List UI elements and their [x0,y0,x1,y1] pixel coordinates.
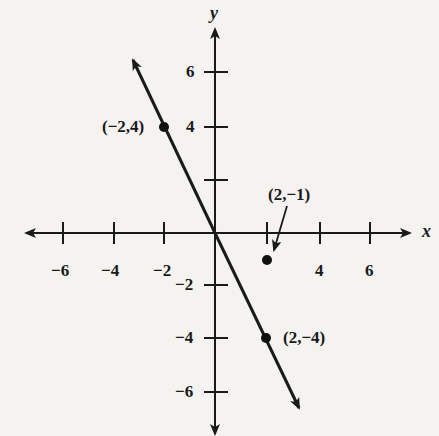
point-neg2-4 [159,122,169,132]
point-2-neg4 [261,333,271,343]
point-label-2-neg1: (2,−1) [268,186,310,203]
point-label-2-neg4: (2,−4) [283,329,325,346]
point-label-neg2-4: (−2,4) [102,118,144,135]
point-2-neg1 [262,255,272,265]
y-tick-label: 6 [186,63,195,80]
y-tick-label: −2 [175,276,193,293]
y-axis-label: y [210,4,218,22]
x-tick-label: 6 [365,262,374,279]
x-tick-label: −4 [101,262,119,279]
x-tick-label: −2 [153,262,171,279]
x-tick-label: 4 [315,262,324,279]
x-axis-label: x [422,222,431,240]
line-y-neg2x [133,60,215,233]
coordinate-plane [0,0,439,436]
y-tick-label: −4 [175,329,193,346]
callout-arrow [274,206,287,250]
y-tick-label: −6 [175,383,193,400]
y-tick-label: 4 [186,118,195,135]
x-tick-label: −6 [51,262,69,279]
